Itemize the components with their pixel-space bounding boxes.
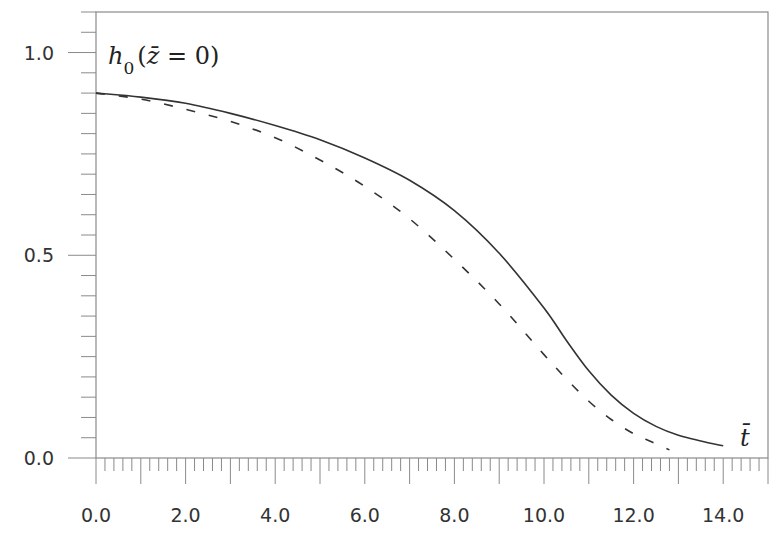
y-annotation-label: h0(z̄ = 0): [108, 42, 219, 78]
chart: 0.00.51.0 0.02.04.06.08.010.012.014.0 h0…: [0, 0, 783, 544]
x-axis-label: t̄: [740, 423, 751, 452]
x-tick-label: 14.0: [702, 504, 744, 526]
y-tick-label: 0.5: [24, 244, 54, 266]
x-axis-tick-labels: 0.02.04.06.08.010.012.014.0: [81, 504, 744, 526]
x-tick-label: 4.0: [260, 504, 290, 526]
data-series: [96, 93, 723, 450]
x-axis-ticks: [96, 458, 768, 484]
y-tick-label: 0.0: [24, 447, 54, 469]
y-axis-ticks: [68, 12, 96, 458]
x-tick-label: 0.0: [81, 504, 111, 526]
y-tick-label: 1.0: [24, 42, 54, 64]
x-tick-label: 8.0: [439, 504, 469, 526]
y-axis-tick-labels: 0.00.51.0: [24, 42, 54, 469]
x-tick-label: 6.0: [350, 504, 380, 526]
solid-curve: [96, 93, 723, 446]
dashed-curve: [96, 93, 669, 450]
x-tick-label: 10.0: [523, 504, 565, 526]
x-tick-label: 2.0: [170, 504, 200, 526]
x-tick-label: 12.0: [612, 504, 654, 526]
plot-frame: [96, 12, 768, 458]
